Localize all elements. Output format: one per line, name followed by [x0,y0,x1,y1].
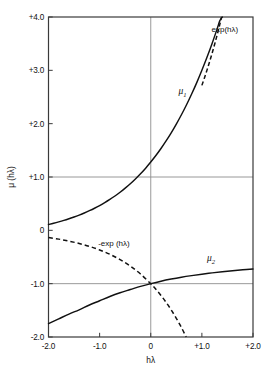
y-tick-label: +1.0 [29,173,45,182]
y-axis-title: μ (hλ) [6,166,16,188]
chart-background [0,0,274,373]
y-tick-label: -2.0 [31,333,45,342]
y-tick-label: +4.0 [29,13,45,22]
x-tick-label: 0 [149,342,154,351]
x-tick-label: +1.0 [194,342,210,351]
mu-vs-hlambda-plot: -2.0-1.00+1.0+2.0 -2.0-1.00+1.0+2.0+3.0+… [0,0,274,373]
y-tick-label: +2.0 [29,120,45,129]
y-tick-label: 0 [40,226,45,235]
x-tick-label: -1.0 [93,342,107,351]
y-tick-label: -1.0 [31,280,45,289]
chart-figure: -2.0-1.00+1.0+2.0 -2.0-1.00+1.0+2.0+3.0+… [0,0,274,373]
y-tick-label: +3.0 [29,66,45,75]
exp-annotation: exp(hλ) [212,25,239,34]
x-tick-label: +2.0 [245,342,261,351]
x-tick-label: -2.0 [42,342,56,351]
neg-exp-annotation: -exp (hλ) [98,239,130,248]
x-axis-title: hλ [146,355,156,365]
